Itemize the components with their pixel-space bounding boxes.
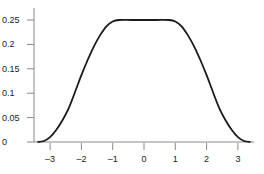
y-tick-label: 0.15 bbox=[2, 64, 20, 74]
x-axis: –3–2–10123 bbox=[34, 142, 254, 164]
x-tick-label: 3 bbox=[235, 154, 240, 164]
x-tick-label: –1 bbox=[108, 154, 118, 164]
y-tick-label: 0.1 bbox=[2, 88, 15, 98]
y-tick-label: 0.05 bbox=[2, 113, 20, 123]
y-tick-label: 0.2 bbox=[2, 39, 15, 49]
x-tick-label: 0 bbox=[141, 154, 146, 164]
y-tick-label: 0 bbox=[2, 137, 7, 147]
x-tick-label: 1 bbox=[173, 154, 178, 164]
data-curve bbox=[38, 20, 251, 142]
x-tick-label: –3 bbox=[45, 154, 55, 164]
y-axis: 00.050.10.150.20.25 bbox=[2, 8, 34, 147]
line-chart: 00.050.10.150.20.25 –3–2–10123 bbox=[0, 0, 264, 174]
x-tick-label: –2 bbox=[76, 154, 86, 164]
y-tick-label: 0.25 bbox=[2, 15, 20, 25]
x-tick-label: 2 bbox=[204, 154, 209, 164]
